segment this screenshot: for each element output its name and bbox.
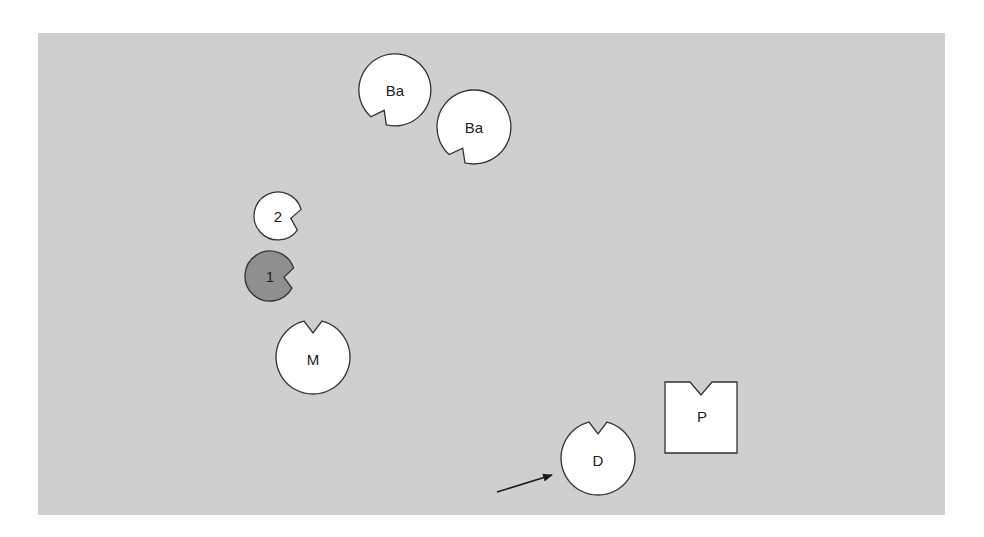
shape-m-label: M	[307, 351, 320, 368]
shape-ba-1: Ba	[359, 54, 431, 126]
shape-m: M	[276, 321, 350, 394]
shape-ba-2: Ba	[437, 90, 511, 164]
shape-d-label: D	[593, 452, 604, 469]
shape-ba-2-label: Ba	[465, 119, 484, 136]
shape-p-label: P	[697, 408, 707, 425]
shape-two: 2	[254, 192, 301, 240]
diagram-canvas: Ba Ba 2 1 M D P	[0, 0, 984, 537]
shape-one-label: 1	[266, 268, 274, 285]
pointer-arrow	[497, 475, 552, 492]
shape-p: P	[665, 382, 737, 453]
shape-d: D	[561, 422, 635, 495]
shape-one: 1	[245, 251, 294, 301]
shape-ba-1-label: Ba	[386, 82, 405, 99]
shape-two-label: 2	[274, 208, 282, 225]
